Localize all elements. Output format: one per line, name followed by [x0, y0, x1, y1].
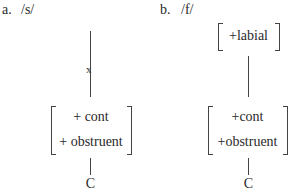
panel-a-feature-cont: + cont	[55, 109, 127, 125]
panel-a-feature-obstruent: + obstruent	[55, 134, 127, 150]
panel-a-right-bracket	[127, 106, 132, 155]
panel-b-right-bracket	[283, 106, 288, 155]
panel-b-node-line	[248, 158, 249, 175]
panel-b-association-line	[248, 56, 249, 97]
panel-b-feature-labial: +labial	[222, 28, 275, 44]
panel-a-node-line	[90, 158, 91, 175]
panel-b-feature-cont: +cont	[212, 109, 283, 125]
panel-b-labial-right-bracket	[275, 23, 280, 51]
panel-b-feature-obstruent: +obstruent	[212, 134, 283, 150]
panel-a-delink-mark: x	[86, 64, 92, 75]
panel-a-label: a.	[2, 2, 12, 18]
panel-b-node-c: C	[238, 176, 259, 192]
panel-b-phoneme: /f/	[181, 2, 193, 18]
panel-a-phoneme: /s/	[21, 2, 34, 18]
panel-a-node-c: C	[80, 176, 101, 192]
panel-b-label: b.	[160, 2, 171, 18]
